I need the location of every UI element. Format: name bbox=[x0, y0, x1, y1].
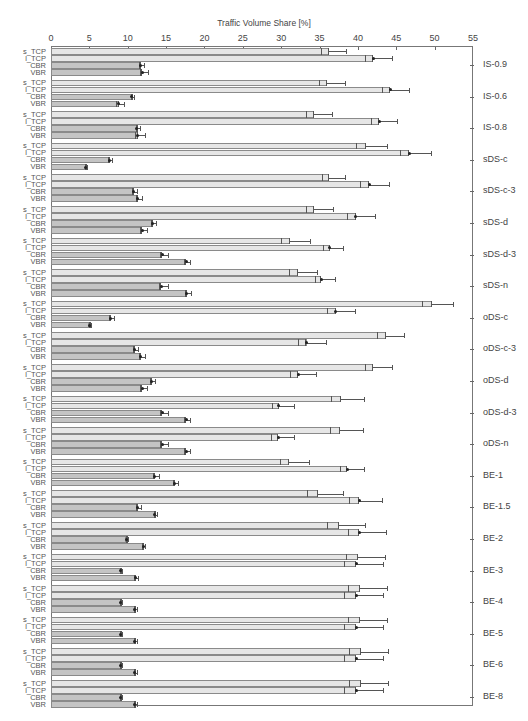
bar-vbr bbox=[51, 543, 143, 550]
bar-l-tcp bbox=[51, 308, 336, 315]
bar-cbr bbox=[51, 568, 121, 575]
error-cap bbox=[326, 340, 327, 345]
bar-l-tcp bbox=[51, 529, 359, 536]
mean-marker bbox=[84, 166, 87, 169]
bar-cbr bbox=[51, 536, 126, 543]
bar-vbr bbox=[51, 195, 138, 202]
x-tick-label: 20 bbox=[199, 33, 209, 43]
bar-label: VBR bbox=[31, 511, 46, 519]
error-cap bbox=[114, 316, 115, 321]
bar-l-tcp bbox=[51, 592, 356, 599]
bar-s-tcp bbox=[51, 364, 373, 371]
confidence-box bbox=[346, 554, 358, 561]
bar-label: VBR bbox=[31, 163, 46, 171]
group-label: IS-0.8 bbox=[483, 122, 507, 132]
mean-marker bbox=[153, 475, 156, 478]
confidence-box bbox=[348, 617, 360, 624]
error-cap bbox=[91, 323, 92, 328]
bar-label: VBR bbox=[31, 100, 46, 108]
y-tick-mark bbox=[470, 476, 474, 477]
error-whisker bbox=[329, 178, 345, 179]
confidence-box bbox=[319, 80, 327, 87]
error-cap bbox=[404, 333, 405, 338]
bar-s-tcp bbox=[51, 111, 314, 118]
mean-marker bbox=[133, 703, 136, 706]
bar-cbr bbox=[51, 473, 155, 480]
x-tick-label: 55 bbox=[468, 33, 478, 43]
y-tick-mark bbox=[470, 223, 474, 224]
traffic-volume-share-chart: Traffic Volume Share [%] 051015202530354… bbox=[0, 0, 528, 721]
group-label: sDS-n bbox=[483, 280, 508, 290]
error-cap bbox=[168, 253, 169, 258]
error-cap bbox=[375, 214, 376, 219]
error-cap bbox=[345, 81, 346, 86]
bar-l-tcp bbox=[51, 213, 356, 220]
x-tick-label: 15 bbox=[161, 33, 171, 43]
bar-cbr bbox=[51, 694, 121, 701]
error-cap bbox=[383, 593, 384, 598]
error-cap bbox=[389, 182, 390, 187]
bar-s-tcp bbox=[51, 522, 339, 529]
bar-vbr bbox=[51, 385, 142, 392]
chart-title: Traffic Volume Share [%] bbox=[0, 18, 528, 28]
error-whisker bbox=[361, 652, 388, 653]
error-cap bbox=[168, 442, 169, 447]
error-cap bbox=[453, 302, 454, 307]
bar-l-tcp bbox=[51, 624, 356, 631]
error-cap bbox=[333, 207, 334, 212]
bar-label: VBR bbox=[31, 290, 46, 298]
confidence-box bbox=[377, 332, 385, 339]
y-tick-mark bbox=[470, 634, 474, 635]
error-cap bbox=[138, 347, 139, 352]
bar-cbr bbox=[51, 220, 152, 227]
error-cap bbox=[191, 291, 192, 296]
error-whisker bbox=[369, 185, 389, 186]
error-cap bbox=[148, 70, 149, 75]
y-tick-mark bbox=[470, 286, 474, 287]
mean-marker bbox=[108, 159, 111, 162]
group-label: BE-6 bbox=[483, 659, 503, 669]
error-whisker bbox=[314, 209, 332, 210]
bar-label: VBR bbox=[31, 669, 46, 677]
error-cap bbox=[159, 474, 160, 479]
error-cap bbox=[145, 544, 146, 549]
y-tick-mark bbox=[470, 318, 474, 319]
error-cap bbox=[386, 530, 387, 535]
error-cap bbox=[387, 586, 388, 591]
error-whisker bbox=[386, 336, 404, 337]
error-cap bbox=[190, 418, 191, 423]
error-cap bbox=[310, 239, 311, 244]
bar-vbr bbox=[51, 227, 142, 234]
error-whisker bbox=[356, 690, 383, 691]
y-tick-mark bbox=[470, 507, 474, 508]
error-cap bbox=[144, 63, 145, 68]
error-cap bbox=[142, 196, 143, 201]
bar-vbr bbox=[51, 259, 186, 266]
bar-l-tcp bbox=[51, 87, 390, 94]
bar-cbr bbox=[51, 378, 152, 385]
bar-s-tcp bbox=[51, 554, 358, 561]
mean-marker bbox=[160, 285, 163, 288]
error-whisker bbox=[356, 595, 383, 596]
error-cap bbox=[392, 56, 393, 61]
bar-label: VBR bbox=[31, 479, 46, 487]
mean-marker bbox=[277, 436, 280, 439]
error-cap bbox=[141, 505, 142, 510]
bar-l-tcp bbox=[51, 434, 278, 441]
error-cap bbox=[147, 386, 148, 391]
mean-marker bbox=[408, 152, 411, 155]
bar-vbr bbox=[51, 511, 155, 518]
error-whisker bbox=[356, 627, 383, 628]
group-label: BE-8 bbox=[483, 691, 503, 701]
x-tick-label: 45 bbox=[391, 33, 401, 43]
y-tick-mark bbox=[470, 97, 474, 98]
group-label: BE-4 bbox=[483, 596, 503, 606]
bar-s-tcp bbox=[51, 332, 386, 339]
group-label: sDS-d bbox=[483, 217, 508, 227]
bar-s-tcp bbox=[51, 48, 329, 55]
error-cap bbox=[137, 607, 138, 612]
mean-marker bbox=[297, 373, 300, 376]
confidence-box bbox=[356, 143, 366, 150]
group-label: BE-3 bbox=[483, 565, 503, 575]
bar-l-tcp bbox=[51, 687, 356, 694]
